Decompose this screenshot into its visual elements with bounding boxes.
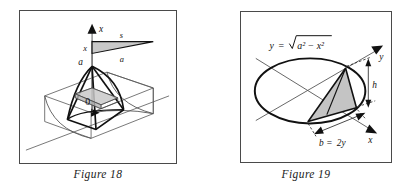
figure-pair-page: x a 0 s x a Figure 18 — [0, 0, 408, 192]
inset-cross-section-triangle — [92, 42, 153, 54]
x-axis-arrowhead — [365, 125, 377, 134]
inset-triangle-shape — [92, 42, 153, 54]
prism-bottom-edges — [45, 114, 154, 139]
label-axis-x: x — [367, 135, 373, 145]
figure-18-drawing: x a 0 s x a — [20, 11, 176, 163]
label-equation-radicand: a² − x² — [297, 40, 325, 51]
h-arrow-up — [365, 58, 371, 66]
figure-18-caption: Figure 18 — [0, 168, 196, 180]
x-axis-arrowhead — [88, 24, 97, 34]
equation-label-group: y = a² − x² — [269, 36, 332, 51]
label-base-2y: 2y — [337, 138, 347, 148]
figure-18-frame: x a 0 s x a — [19, 10, 177, 164]
figure-19-frame: y = a² − x² y x h b = 2y — [240, 11, 392, 163]
label-inset-a: a — [120, 55, 124, 64]
label-axis-y: y — [378, 52, 384, 62]
prism-right-end — [107, 72, 153, 113]
label-equation-equals: = — [279, 40, 285, 51]
label-apex-a: a — [78, 57, 83, 67]
figure-19-caption: Figure 19 — [204, 168, 408, 180]
label-base-b-group: b = 2y — [319, 138, 346, 148]
label-height-h: h — [372, 80, 377, 90]
b-leader-left — [308, 124, 316, 137]
label-base-b: b — [319, 138, 324, 148]
label-axis-x: x — [98, 24, 104, 34]
label-base-equals: = — [327, 138, 332, 148]
label-inset-x: x — [82, 44, 87, 53]
label-origin-zero: 0 — [85, 96, 90, 107]
b-arrow-left — [314, 126, 324, 134]
figure-19-block: y = a² − x² y x h b = 2y Figure 19 — [204, 0, 408, 192]
label-inset-s: s — [120, 31, 123, 40]
trough-curve-far — [107, 72, 153, 113]
label-equation-y: y — [269, 40, 275, 51]
figure-19-drawing: y = a² − x² y x h b = 2y — [241, 12, 391, 162]
figure-18-block: x a 0 s x a Figure 18 — [0, 0, 204, 192]
